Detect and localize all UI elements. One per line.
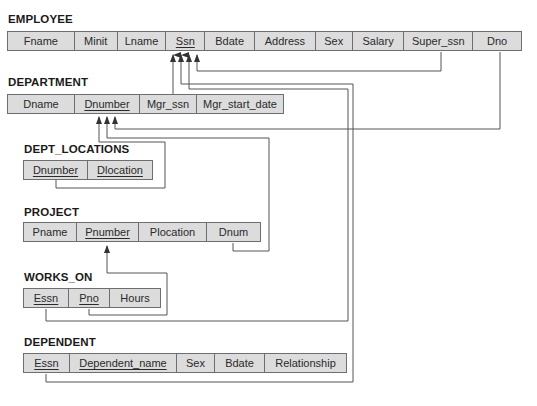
relation-title-dept-locations: DEPT_LOCATIONS: [24, 143, 129, 155]
fk-super-ssn-to-ssn: [197, 52, 441, 71]
attr-employee-salary: Salary: [353, 32, 405, 50]
primary-key-pno: Pno: [79, 292, 99, 304]
primary-key-dlocation: Dlocation: [97, 164, 143, 176]
primary-key-ssn: Ssn: [176, 35, 195, 47]
attr-dept-locations-dnumber: Dnumber: [24, 161, 88, 179]
relation-title-employee: EMPLOYEE: [8, 13, 73, 25]
primary-key-pnumber: Pnumber: [85, 226, 130, 238]
primary-key-essn: Essn: [34, 292, 58, 304]
attr-works-on-essn: Essn: [24, 289, 69, 307]
attr-employee-lname: Lname: [118, 32, 167, 50]
arrowhead-icon: [186, 54, 192, 62]
attr-works-on-pno: Pno: [69, 289, 110, 307]
attr-dependent-relationship: Relationship: [265, 354, 346, 372]
attr-project-pnumber: Pnumber: [77, 223, 139, 241]
arrowhead-icon: [170, 54, 176, 62]
arrowhead-icon: [178, 54, 184, 62]
attr-employee-dno: Dno: [473, 32, 521, 50]
attr-project-plocation: Plocation: [139, 223, 207, 241]
attr-department-mgr-start-date: Mgr_start_date: [197, 95, 283, 113]
fk-dno-to-dnumber: [115, 52, 500, 129]
attr-employee-fname: Fname: [8, 32, 75, 50]
attr-department-dname: Dname: [8, 95, 75, 113]
relation-department: Dname Dnumber Mgr_ssn Mgr_start_date: [7, 94, 284, 114]
primary-key-dnumber: Dnumber: [33, 164, 78, 176]
attr-project-pname: Pname: [24, 223, 77, 241]
attr-department-dnumber: Dnumber: [75, 95, 140, 113]
attr-works-on-hours: Hours: [110, 289, 160, 307]
arrowhead-icon: [104, 116, 110, 124]
arrowhead-icon: [194, 54, 200, 62]
relation-title-works-on: WORKS_ON: [24, 271, 93, 283]
attr-dependent-bdate: Bdate: [215, 354, 265, 372]
primary-key-dependent-name: Dependent_name: [79, 357, 166, 369]
relation-dept-locations: Dnumber Dlocation: [23, 160, 153, 180]
attr-employee-sex: Sex: [316, 32, 353, 50]
attr-project-dnum: Dnum: [207, 223, 260, 241]
relation-employee: Fname Minit Lname Ssn Bdate Address Sex …: [7, 31, 522, 51]
primary-key-dnumber: Dnumber: [84, 98, 129, 110]
relation-title-department: DEPARTMENT: [8, 76, 88, 88]
relation-dependent: Essn Dependent_name Sex Bdate Relationsh…: [23, 353, 347, 373]
attr-dependent-essn: Essn: [24, 354, 70, 372]
arrowhead-icon: [96, 116, 102, 124]
attr-employee-bdate: Bdate: [205, 32, 255, 50]
relation-works-on: Essn Pno Hours: [23, 288, 161, 308]
relation-project: Pname Pnumber Plocation Dnum: [23, 222, 261, 242]
attr-dept-locations-dlocation: Dlocation: [88, 161, 152, 179]
attr-employee-minit: Minit: [75, 32, 118, 50]
attr-employee-super-ssn: Super_ssn: [404, 32, 473, 50]
relation-title-project: PROJECT: [24, 206, 79, 218]
attr-employee-address: Address: [255, 32, 316, 50]
attr-department-mgr-ssn: Mgr_ssn: [140, 95, 197, 113]
attr-employee-ssn: Ssn: [166, 32, 205, 50]
arrowhead-icon: [104, 245, 110, 253]
attr-dependent-dependent-name: Dependent_name: [70, 354, 177, 372]
primary-key-essn: Essn: [34, 357, 58, 369]
attr-dependent-sex: Sex: [177, 354, 215, 372]
relation-title-dependent: DEPENDENT: [24, 336, 96, 348]
arrowhead-icon: [112, 116, 118, 124]
